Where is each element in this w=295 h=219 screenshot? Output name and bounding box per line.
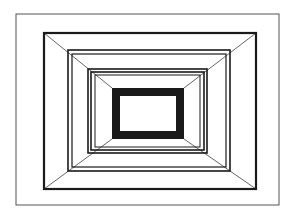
frames-drawing xyxy=(0,0,295,219)
perspective-frames-diagram xyxy=(0,0,295,219)
